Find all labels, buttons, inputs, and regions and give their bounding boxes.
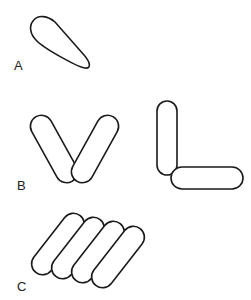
panel-a: A [14, 17, 89, 73]
rod-cell [157, 101, 177, 175]
panel-label-c: C [17, 279, 26, 294]
rod-cell [171, 167, 243, 189]
teardrop-cell [31, 17, 90, 69]
panel-c: C [17, 209, 149, 294]
l-pair [157, 101, 243, 189]
panel-label-b: B [17, 178, 26, 193]
v-pair [26, 111, 122, 186]
rod-cell [67, 111, 122, 186]
panel-b: B [17, 101, 243, 193]
bacterial-arrangement-diagram: A B C [0, 0, 251, 300]
panel-label-a: A [14, 58, 23, 73]
